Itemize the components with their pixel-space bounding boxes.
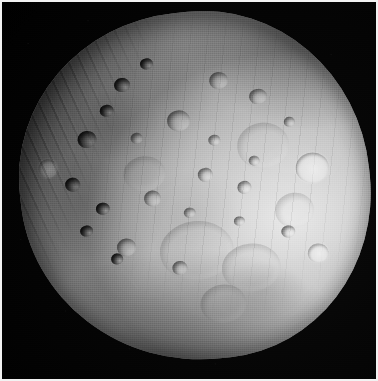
limb-darkening — [3, 2, 376, 377]
crater-dark-4 — [80, 225, 94, 237]
crater-dark-6 — [113, 77, 130, 92]
crater-ghost-3 — [199, 282, 248, 325]
crater-bowl-2 — [208, 71, 229, 90]
crater-bowl-6 — [237, 180, 252, 194]
crater-bright-south — [307, 242, 330, 263]
crater-bowl-3 — [248, 88, 267, 105]
crater-dark-8 — [139, 58, 153, 70]
crater-bowl-1 — [166, 110, 191, 133]
crater-bowl-8 — [171, 260, 188, 275]
crater-ghost-4 — [234, 120, 291, 170]
crater-dark-5 — [99, 104, 114, 118]
terminator-ridges — [3, 2, 376, 377]
crater-bowl-15 — [233, 216, 244, 226]
crater-ghost-5 — [122, 154, 167, 193]
crater-dark-7 — [111, 253, 124, 265]
crater-bowl-5 — [197, 167, 214, 182]
crater-dark-2 — [64, 177, 81, 192]
crater-ghost-1 — [157, 217, 236, 284]
crater-bowl-4 — [143, 190, 162, 207]
crater-ghost-6 — [273, 191, 315, 230]
crater-bowl-9 — [280, 225, 295, 239]
tone-curve — [3, 2, 376, 377]
crater-bright-limb — [37, 159, 58, 180]
crater-bowl-11 — [183, 207, 196, 219]
crater-bowl-12 — [248, 155, 260, 166]
crater-dark-3 — [95, 202, 110, 216]
limb-shadow-bottom — [3, 2, 376, 377]
crater-bowl-13 — [130, 132, 144, 144]
crater-ghost-2 — [219, 240, 283, 295]
crater-bowl-10 — [207, 134, 221, 146]
phobos-disk — [3, 2, 376, 377]
phobos-body — [20, 12, 370, 360]
space-background — [2, 2, 376, 379]
terminator-shadow — [3, 2, 376, 377]
crater-bowl-14 — [283, 116, 296, 128]
regolith-mottling — [3, 2, 376, 377]
phobos-grooves — [3, 2, 376, 377]
crater-bowl-7 — [116, 238, 137, 257]
crater-bright-east — [294, 151, 330, 184]
image-viewer — [0, 0, 378, 381]
crater-dark-1 — [77, 130, 98, 149]
limb-shadow-top — [3, 2, 376, 377]
